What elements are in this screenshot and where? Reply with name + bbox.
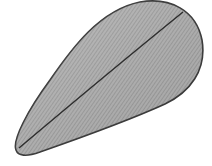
teardrop-shape-diagram — [0, 0, 212, 166]
